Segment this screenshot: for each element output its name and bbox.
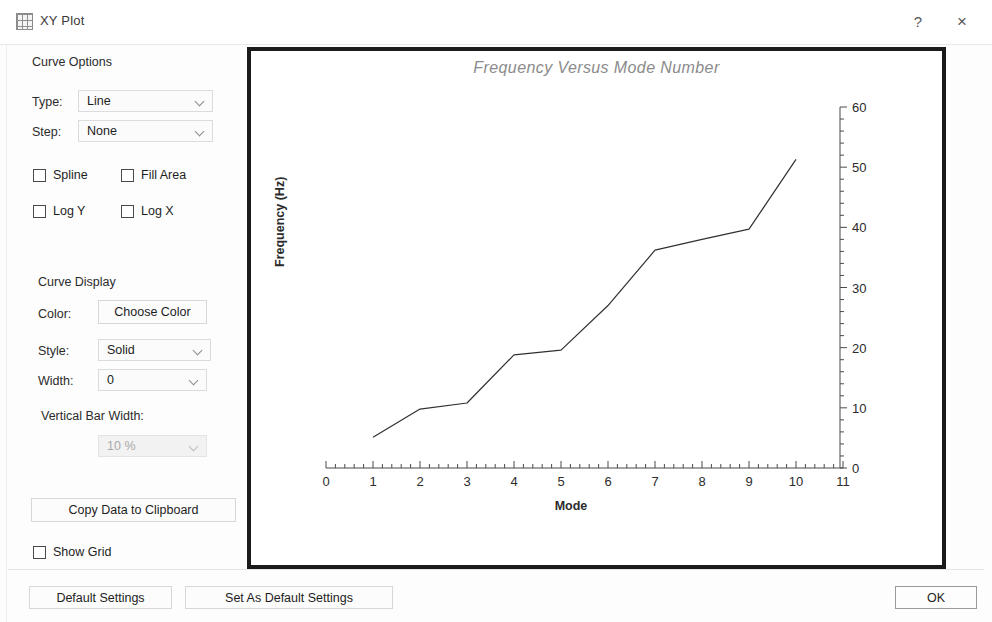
y-tick-label: 50 <box>852 160 866 175</box>
default-settings-button[interactable]: Default Settings <box>29 586 172 609</box>
y-tick-label: 10 <box>852 401 866 416</box>
close-button[interactable]: × <box>944 8 980 36</box>
log-y-label: Log Y <box>53 204 85 218</box>
log-x-label: Log X <box>141 204 174 218</box>
set-as-default-settings-button[interactable]: Set As Default Settings <box>185 586 393 609</box>
xy-chart: 012345678910110102030405060 <box>251 51 942 565</box>
xy-plot-icon <box>16 13 33 30</box>
show-grid-label: Show Grid <box>53 545 111 559</box>
plot-inner: Frequency Versus Mode Number Frequency (… <box>251 51 942 565</box>
style-value: Solid <box>107 343 135 357</box>
x-tick-label: 3 <box>463 474 470 489</box>
show-grid-checkbox[interactable] <box>33 546 46 559</box>
fill-area-checkbox[interactable] <box>121 169 134 182</box>
x-tick-label: 5 <box>557 474 564 489</box>
y-tick-label: 30 <box>852 281 866 296</box>
ok-button[interactable]: OK <box>895 586 977 609</box>
y-tick-label: 0 <box>852 461 859 476</box>
spline-label: Spline <box>53 168 88 182</box>
vertical-bar-width-combo: 10 % <box>98 435 207 457</box>
chevron-down-icon <box>190 443 199 452</box>
x-tick-label: 4 <box>510 474 517 489</box>
step-combo[interactable]: None <box>78 120 213 142</box>
style-combo[interactable]: Solid <box>98 339 211 361</box>
footer-divider <box>8 569 984 570</box>
fill-area-checkbox-row[interactable]: Fill Area <box>121 168 186 182</box>
window-title: XY Plot <box>40 13 85 28</box>
fill-area-label: Fill Area <box>141 168 186 182</box>
x-tick-label: 0 <box>322 474 329 489</box>
plot-frame: Frequency Versus Mode Number Frequency (… <box>247 47 946 569</box>
xy-plot-dialog: XY Plot ? × Curve Options Type: Line Ste… <box>0 0 992 622</box>
chevron-down-icon <box>196 128 205 137</box>
step-value: None <box>87 124 117 138</box>
type-label: Type: <box>32 95 63 109</box>
spline-checkbox-row[interactable]: Spline <box>33 168 88 182</box>
chevron-down-icon <box>190 377 199 386</box>
show-grid-checkbox-row[interactable]: Show Grid <box>33 545 111 559</box>
log-x-checkbox-row[interactable]: Log X <box>121 204 174 218</box>
options-panel: Curve Options Type: Line Step: None Spli… <box>0 44 248 622</box>
x-tick-label: 11 <box>836 474 850 489</box>
chevron-down-icon <box>194 347 203 356</box>
curve-display-group-label: Curve Display <box>38 275 116 289</box>
y-tick-label: 20 <box>852 341 866 356</box>
type-combo[interactable]: Line <box>78 90 213 112</box>
y-tick-label: 40 <box>852 220 866 235</box>
x-tick-label: 1 <box>369 474 376 489</box>
spline-checkbox[interactable] <box>33 169 46 182</box>
width-label: Width: <box>38 374 73 388</box>
step-label: Step: <box>32 125 61 139</box>
type-value: Line <box>87 94 111 108</box>
series-line <box>373 159 796 437</box>
x-tick-label: 8 <box>698 474 705 489</box>
x-tick-label: 6 <box>604 474 611 489</box>
choose-color-button[interactable]: Choose Color <box>98 300 207 324</box>
width-combo[interactable]: 0 <box>98 369 207 391</box>
chevron-down-icon <box>196 98 205 107</box>
help-button[interactable]: ? <box>900 8 936 36</box>
log-y-checkbox[interactable] <box>33 205 46 218</box>
width-value: 0 <box>107 373 114 387</box>
vertical-bar-width-value: 10 % <box>107 439 136 453</box>
y-tick-label: 60 <box>852 100 866 115</box>
x-tick-label: 7 <box>651 474 658 489</box>
copy-data-to-clipboard-button[interactable]: Copy Data to Clipboard <box>31 498 236 522</box>
x-tick-label: 10 <box>789 474 803 489</box>
color-label: Color: <box>38 307 71 321</box>
log-y-checkbox-row[interactable]: Log Y <box>33 204 85 218</box>
x-tick-label: 9 <box>745 474 752 489</box>
log-x-checkbox[interactable] <box>121 205 134 218</box>
style-label: Style: <box>38 344 69 358</box>
vertical-bar-width-label: Vertical Bar Width: <box>41 409 144 423</box>
x-tick-label: 2 <box>416 474 423 489</box>
curve-options-group-label: Curve Options <box>32 55 112 69</box>
title-bar: XY Plot ? × <box>0 0 992 45</box>
